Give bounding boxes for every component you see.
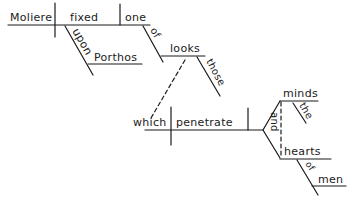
subject-word: Moliere [10, 11, 52, 24]
verb-word: fixed [70, 11, 98, 24]
and-word: and [269, 112, 280, 132]
relative-connector [151, 60, 185, 118]
of-men-word: of [303, 159, 317, 173]
minds-word: minds [283, 87, 318, 100]
porthos-word: Porthos [94, 51, 137, 64]
those-word: those [204, 57, 227, 88]
of-word: of [148, 26, 163, 41]
penetrate-word: penetrate [176, 116, 233, 129]
which-word: which [133, 116, 167, 129]
sentence-diagram: Moliere fixed one upon Porthos of looks … [0, 0, 351, 200]
men-word: men [318, 173, 343, 186]
direct-object-word: one [125, 11, 146, 24]
upon-word: upon [69, 26, 95, 57]
looks-word: looks [170, 42, 200, 55]
the-word: the [297, 101, 315, 121]
hearts-word: hearts [284, 145, 321, 158]
